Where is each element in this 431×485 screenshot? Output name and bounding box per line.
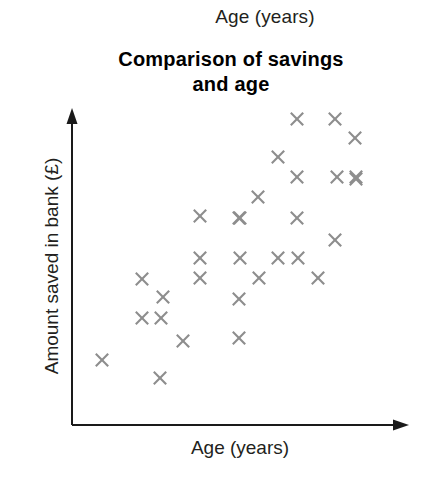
data-point [154,372,166,384]
data-point [136,312,148,324]
x-axis-arrowhead [393,420,409,431]
data-point [291,171,303,183]
data-point [291,212,303,224]
data-point [291,113,303,125]
data-point [157,291,169,303]
plot-area [0,0,431,485]
x-axis-label: Age (years) [140,437,340,459]
data-point [292,252,304,264]
data-point [194,272,206,284]
data-point-group [96,113,362,384]
data-point [136,273,148,285]
y-axis-arrowhead [67,108,78,124]
data-point [312,272,324,284]
data-point [96,354,108,366]
data-point [349,132,361,144]
data-point [272,252,284,264]
scatter-plot-figure: Age (years) Comparison of savings and ag… [0,0,431,485]
data-point [194,210,206,222]
data-point [329,234,341,246]
data-point [252,191,264,203]
data-point [329,113,341,125]
data-point [272,151,284,163]
data-point [233,332,245,344]
data-point [350,171,362,183]
data-point [177,335,189,347]
data-point [155,312,167,324]
y-axis-label: Amount saved in bank (£) [41,151,63,381]
data-point [234,252,246,264]
data-point [194,252,206,264]
data-point [253,272,265,284]
data-point [350,173,362,185]
data-point [234,212,246,224]
data-point [331,171,343,183]
data-point [233,293,245,305]
